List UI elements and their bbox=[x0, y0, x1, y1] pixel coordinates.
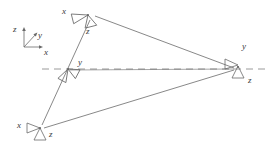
camera-top-label-z: z bbox=[86, 27, 90, 36]
world-axis-label-z: z bbox=[13, 25, 17, 34]
camera-right-body bbox=[225, 59, 238, 69]
world-axis-label-x: x bbox=[44, 48, 48, 57]
camera-bottom-left-center bbox=[39, 127, 41, 129]
camera-right-label-z: z bbox=[248, 76, 252, 85]
connection-top-right bbox=[95, 16, 234, 68]
camera-right-center bbox=[237, 66, 239, 68]
diagram-canvas bbox=[0, 0, 268, 145]
connection-top-bottomleft bbox=[42, 20, 90, 125]
world-axis-x-arrowhead bbox=[39, 45, 43, 49]
connection-bottomleft-right bbox=[44, 70, 234, 128]
camera-top[interactable] bbox=[71, 9, 96, 31]
camera-bottom-left[interactable] bbox=[27, 123, 46, 140]
world-axis-y bbox=[24, 34, 36, 47]
camera-network-diagram: z y x x z y x z y z bbox=[0, 0, 268, 145]
camera-bottom-left-label-x: x bbox=[17, 121, 21, 130]
camera-bottom-left-label-z: z bbox=[49, 130, 53, 139]
camera-middle-label-y: y bbox=[78, 58, 82, 67]
camera-right-label-y: y bbox=[242, 42, 246, 51]
world-axis-label-y: y bbox=[38, 31, 42, 40]
world-axis-z-arrowhead bbox=[22, 27, 26, 31]
camera-top-label-x: x bbox=[62, 7, 66, 16]
